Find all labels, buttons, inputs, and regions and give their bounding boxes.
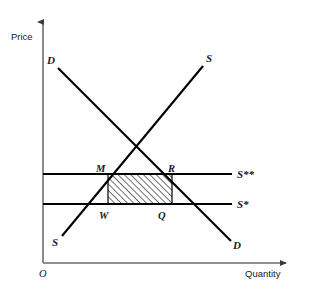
point-label-m: M (95, 163, 106, 174)
demand-curve (58, 68, 231, 241)
shaded-region-group (108, 174, 172, 204)
y-axis-label: Price (11, 31, 33, 42)
supply-demand-diagram: Price Quantity O D D S S S** S* M R W Q (0, 0, 323, 289)
supply-curve (62, 66, 203, 236)
point-label-r: R (167, 163, 175, 174)
supply-curve-group (62, 66, 203, 236)
x-axis-label: Quantity (245, 268, 281, 279)
demand-label-bottom: D (232, 239, 241, 251)
axes-group (43, 22, 286, 263)
supply-label-top: S (206, 52, 212, 64)
diagram-canvas: Price Quantity O D D S S S** S* M R W Q (0, 0, 323, 289)
demand-label-top: D (46, 54, 55, 66)
point-label-w: W (99, 210, 109, 221)
supply-label-bottom: S (52, 236, 58, 248)
origin-label: O (39, 268, 47, 279)
demand-curve-group (58, 68, 231, 241)
point-label-q: Q (158, 210, 166, 221)
lower-price-line-label: S* (237, 198, 249, 210)
deadweight-rectangle-MRQW (108, 174, 172, 204)
upper-price-line-label: S** (237, 168, 255, 180)
